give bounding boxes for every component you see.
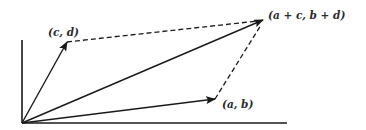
dashed-edge-ab-to-sum — [215, 25, 261, 99]
label-ab: (a, b) — [222, 99, 253, 110]
label-sum: (a + c, b + d) — [268, 10, 345, 21]
vector-cd-arrow — [22, 42, 67, 123]
dashed-edge-cd-to-sum — [67, 21, 258, 42]
label-cd: (c, d) — [48, 27, 79, 38]
